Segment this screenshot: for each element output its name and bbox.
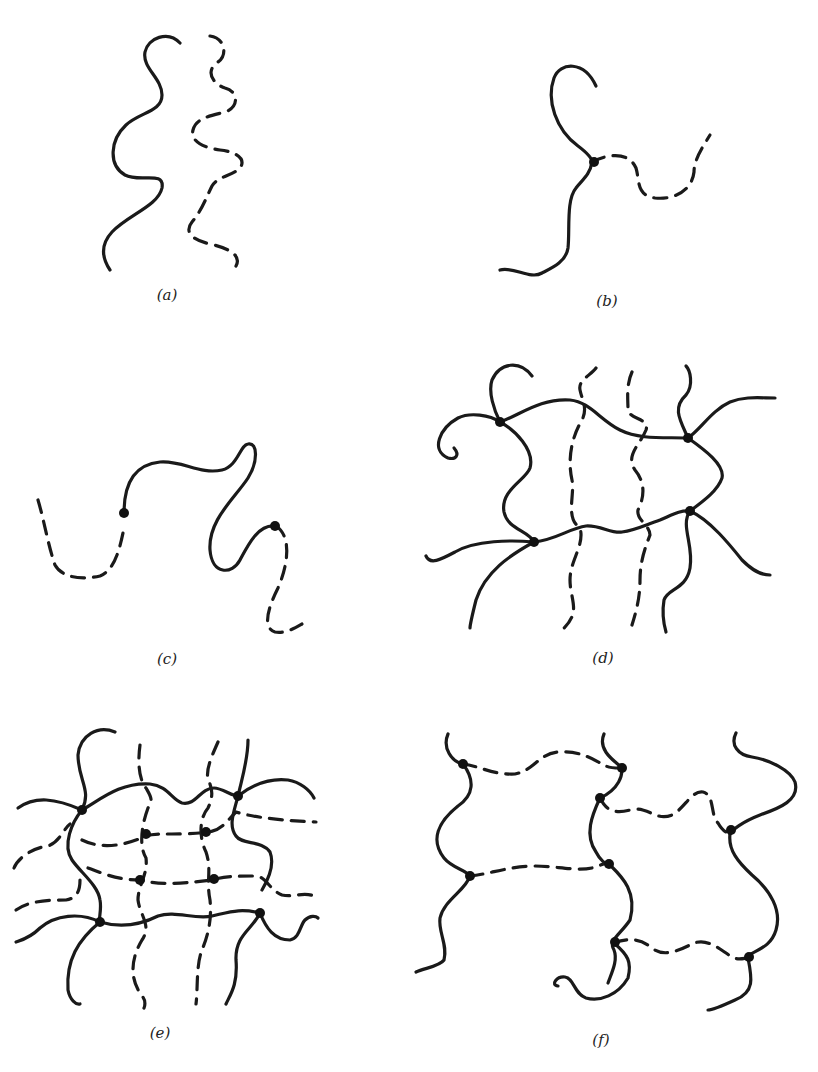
panel-e-drawing <box>14 730 318 1008</box>
panel-f-label: (f) <box>592 1031 609 1049</box>
panel-b-label: (b) <box>596 292 617 310</box>
panel-e-label: (e) <box>150 1024 171 1042</box>
panel-d-label: (d) <box>592 649 613 667</box>
panel-a-drawing <box>104 36 242 270</box>
panel-b-drawing <box>500 66 710 275</box>
polymer-crosslink-figure <box>0 0 818 1072</box>
panel-c-drawing <box>38 444 302 633</box>
panel-a-label: (a) <box>157 286 178 304</box>
panel-c-label: (c) <box>157 650 177 668</box>
panel-d-drawing <box>426 365 775 632</box>
panel-f-drawing <box>416 733 796 1010</box>
